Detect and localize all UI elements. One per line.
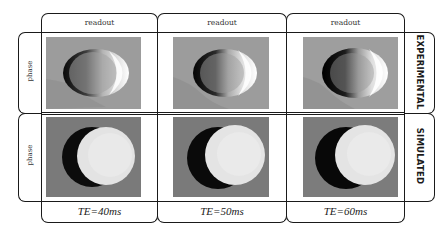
column-footer-3: TE=60ms (286, 201, 405, 223)
simulated-image-te40 (46, 117, 141, 197)
te-comparison-figure: readout readout readout TE=40ms TE=50ms … (0, 0, 448, 240)
row-divider-middle-2 (41, 114, 405, 115)
experimental-image-te40 (46, 37, 141, 109)
column-divider-2 (286, 32, 287, 202)
column-divider-1 (157, 32, 158, 202)
readout-label: readout (85, 18, 115, 27)
simulated-image-te50 (173, 117, 269, 197)
phase-axis-label-experimental: phase (26, 58, 34, 84)
readout-label: readout (207, 18, 237, 27)
phase-axis-label-simulated: phase (26, 142, 34, 168)
te-label-50ms: TE=50ms (200, 205, 243, 217)
experimental-image-te50 (173, 37, 269, 109)
column-header-2: readout (157, 13, 287, 33)
column-footer-1: TE=40ms (41, 201, 158, 223)
te-label-40ms: TE=40ms (78, 205, 121, 217)
readout-label: readout (331, 18, 361, 27)
row-label-simulated: SIMULATED (415, 106, 425, 206)
row-divider-bottom (41, 201, 405, 202)
row-divider-top (41, 32, 405, 33)
column-footer-2: TE=50ms (157, 201, 287, 223)
te-label-60ms: TE=60ms (324, 205, 367, 217)
experimental-image-te60 (303, 37, 398, 109)
column-header-1: readout (41, 13, 158, 33)
row-divider-middle (41, 112, 405, 113)
simulated-image-te60 (303, 117, 398, 197)
column-header-3: readout (286, 13, 405, 33)
